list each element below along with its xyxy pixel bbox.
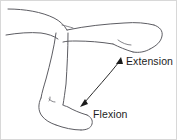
thigh-top-contour (8, 9, 67, 30)
lower-shin-back-contour (63, 33, 68, 105)
flexed-foot-sole (56, 125, 81, 130)
extended-ankle-crease (118, 40, 131, 45)
flexed-foot-instep (63, 105, 87, 115)
flexed-foot-toe-tip (81, 115, 92, 130)
flexion-label: Flexion (93, 109, 128, 120)
extended-foot-toe-tip (133, 49, 150, 52)
motion-arc (85, 62, 119, 102)
lower-shin-front-contour (41, 33, 56, 98)
arrowhead-extension (116, 57, 123, 64)
thigh-underside-contour (6, 33, 58, 39)
ankle-motion-figure: Extension Flexion (0, 0, 177, 140)
upper-shin-bottom-contour (63, 41, 113, 44)
extension-label: Extension (126, 56, 173, 67)
upper-shin-top-contour (67, 23, 154, 30)
anatomy-line-drawing (0, 0, 177, 140)
extended-foot-top-edge (150, 25, 162, 49)
knee-crease-upper (62, 25, 73, 28)
